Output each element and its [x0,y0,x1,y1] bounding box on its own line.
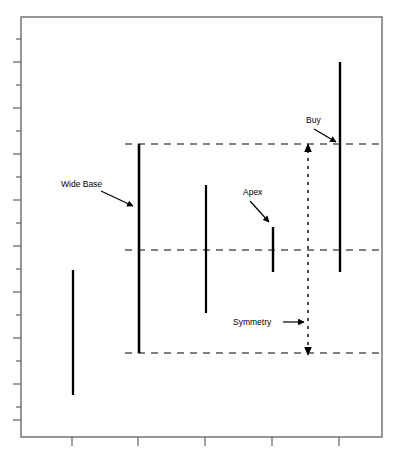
symmetry-label: Symmetry [233,317,272,327]
y-axis-ticks [13,39,21,420]
apex-label: Apex [243,187,263,197]
x-axis-ticks [72,437,339,446]
plot-background [21,17,382,437]
buy-label: Buy [306,115,321,125]
wide-base-label: Wide Base [61,179,102,189]
chart-canvas: Wide Base Apex Buy Symmetry [0,0,409,461]
price-pattern-chart: Wide Base Apex Buy Symmetry [0,0,409,461]
